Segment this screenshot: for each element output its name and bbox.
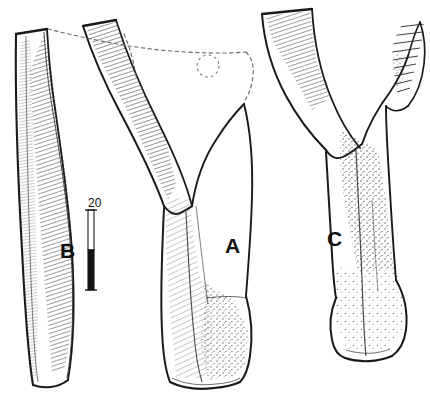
specimen-a	[83, 20, 252, 389]
reconstruction-dashed-outline	[48, 29, 253, 100]
specimen-label-b: B	[60, 240, 75, 261]
figure-panel: A B C 20	[0, 0, 430, 409]
specimen-label-c: C	[327, 228, 342, 249]
scale-bar	[85, 210, 97, 290]
dashed-circle-annotation	[197, 55, 219, 77]
specimen-b	[16, 29, 74, 387]
scale-bar-label: 20	[88, 196, 102, 210]
scale-bar-lower-segment	[88, 250, 94, 290]
specimen-illustration	[0, 0, 430, 409]
specimen-c	[262, 9, 425, 361]
scale-bar-upper-segment	[88, 210, 94, 250]
specimen-label-a: A	[225, 235, 240, 256]
